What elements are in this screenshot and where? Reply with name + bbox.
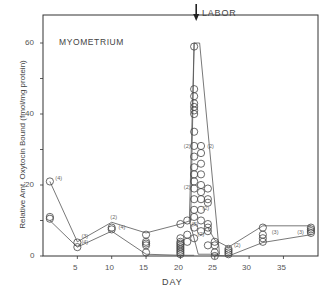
plot-frame	[43, 15, 318, 256]
sample-count-label: (2)	[110, 214, 117, 220]
data-point	[46, 215, 53, 222]
labor-annotation: LABOR	[202, 8, 237, 18]
x-tick-25: 25	[208, 263, 217, 272]
sample-count-label: (5)	[191, 221, 198, 227]
labor-arrow-icon	[193, 14, 199, 21]
sample-count-label: (3)	[272, 229, 279, 235]
data-point	[191, 93, 198, 100]
x-axis-label: DAY	[162, 277, 183, 287]
sample-count-label: (4)	[55, 175, 62, 181]
x-tick-5: 5	[73, 263, 77, 272]
y-axis-label: Relative Amt. Oxytocin Bound (fmol/mg pr…	[18, 35, 27, 255]
data-point	[191, 213, 198, 220]
data-point	[197, 171, 204, 178]
data-point	[184, 238, 191, 245]
sample-count-label: (3)	[297, 229, 304, 235]
sample-count-label: (2)	[234, 242, 241, 248]
y-tick-20: 20	[25, 180, 34, 189]
y-tick-60: 60	[25, 38, 34, 47]
data-point	[142, 240, 149, 247]
sample-count-label: (4)	[119, 224, 126, 230]
data-point	[204, 185, 211, 192]
sample-count-label: (2)	[198, 231, 205, 237]
data-point	[197, 160, 204, 167]
sample-count-label: (2)	[184, 184, 191, 190]
data-point	[46, 213, 53, 220]
chart-canvas: (4)(3)(4)(2)(4)(2)(2)(2)(2)(2)(5)(2)(3)(…	[0, 0, 329, 297]
sample-count-label: (2)	[184, 143, 191, 149]
data-point	[108, 224, 115, 231]
data-point	[204, 242, 211, 249]
data-point	[197, 196, 204, 203]
data-point	[197, 149, 204, 156]
data-point	[191, 206, 198, 213]
data-point	[46, 178, 53, 185]
envelope-upper-line	[50, 43, 194, 242]
data-point	[197, 189, 204, 196]
data-point	[197, 217, 204, 224]
x-tick-30: 30	[242, 263, 251, 272]
y-tick-40: 40	[25, 109, 34, 118]
sample-count-label: (4)	[81, 239, 88, 245]
y-tick-0: 0	[30, 251, 34, 260]
x-tick-35: 35	[277, 263, 286, 272]
data-point	[142, 231, 149, 238]
sample-count-label: (2)	[207, 143, 214, 149]
data-point	[197, 181, 204, 188]
x-tick-20: 20	[174, 263, 183, 272]
data-point	[184, 231, 191, 238]
sample-count-label: (2)	[202, 205, 209, 211]
data-point	[108, 226, 115, 233]
x-tick-15: 15	[139, 263, 148, 272]
data-point	[197, 142, 204, 149]
chart-title: MYOMETRIUM	[59, 37, 124, 47]
x-tick-10: 10	[105, 263, 114, 272]
data-point	[191, 86, 198, 93]
data-point	[191, 196, 198, 203]
